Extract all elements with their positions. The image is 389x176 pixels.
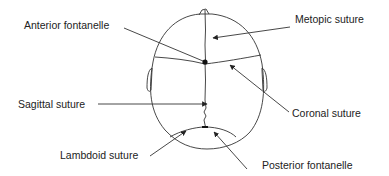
label-posterior-fontanelle: Posterior fontanelle [262,160,352,171]
label-metopic-suture: Metopic suture [295,14,364,25]
sagittal-suture-line [204,61,206,127]
label-coronal-suture: Coronal suture [292,108,361,119]
metopic-suture-line [205,10,206,61]
anterior-fontanelle-dot [202,59,207,64]
label-lambdoid-suture: Lambdoid suture [60,150,138,161]
lambdoid-suture-arrow [150,131,186,156]
label-sagittal-suture: Sagittal suture [18,99,85,110]
coronal-suture-line [155,55,261,64]
coronal-suture-arrow [230,65,289,112]
label-anterior-fontanelle: Anterior fontanelle [24,20,109,31]
posterior-fontanelle-arrow [214,132,247,169]
skull-outline [151,14,264,149]
anterior-fontanelle-leader [124,28,203,61]
